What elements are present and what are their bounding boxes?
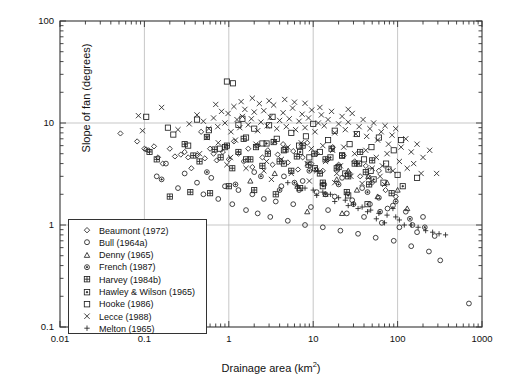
legend-label: Bull (1964a) (99, 237, 148, 249)
legend-item: Harvey (1984b) (69, 273, 206, 285)
x-tick-label: 1 (199, 333, 259, 344)
legend-marker-circle (77, 236, 97, 248)
legend-label: French (1987) (99, 261, 156, 273)
y-tick-label: 100 (10, 15, 54, 26)
legend-marker-triangle (77, 249, 97, 261)
legend-marker-cross-x (77, 310, 97, 322)
legend-item: Bull (1964a) (69, 236, 206, 248)
x-axis-label-tail: ) (317, 362, 321, 374)
legend-marker-square (77, 298, 97, 310)
legend-marker-plus (77, 322, 97, 334)
y-axis-label: Slope of fan (degrees) (80, 8, 92, 188)
legend-item: Hooke (1986) (69, 298, 206, 310)
y-tick-label: 1 (10, 219, 54, 230)
legend-marker-diamond (77, 224, 97, 236)
series-square-plus (147, 134, 394, 199)
legend-label: Hooke (1986) (99, 298, 154, 310)
x-tick-label: 1000 (452, 333, 505, 344)
y-tick-label: 10 (10, 117, 54, 128)
legend-label: Lecce (1988) (99, 311, 152, 323)
y-tick-label: 0.1 (10, 321, 54, 332)
legend-item: Denny (1965) (69, 249, 206, 261)
legend: Beaumont (1972)Bull (1964a)Denny (1965)F… (68, 219, 207, 334)
legend-marker-circle-dot (77, 261, 97, 273)
legend-label: Denny (1965) (99, 249, 154, 261)
x-tick-label: 100 (368, 333, 428, 344)
legend-item: Hawley & Wilson (1965) (69, 286, 206, 298)
legend-item: French (1987) (69, 261, 206, 273)
legend-marker-square-plus (77, 273, 97, 285)
legend-label: Harvey (1984b) (99, 274, 161, 286)
legend-item: Beaumont (1972) (69, 224, 206, 236)
x-axis-label-base: Drainage area (km (222, 362, 313, 374)
legend-label: Melton (1965) (99, 323, 155, 335)
legend-label: Beaumont (1972) (99, 225, 169, 237)
x-axis-label: Drainage area (km2) (60, 360, 482, 374)
series-cross-x (136, 96, 439, 187)
legend-item: Lecce (1988) (69, 310, 206, 322)
x-tick-label: 10 (283, 333, 343, 344)
legend-label: Hawley & Wilson (1965) (99, 286, 195, 298)
legend-item: Melton (1965) (69, 322, 206, 334)
legend-marker-square-dot (77, 286, 97, 298)
